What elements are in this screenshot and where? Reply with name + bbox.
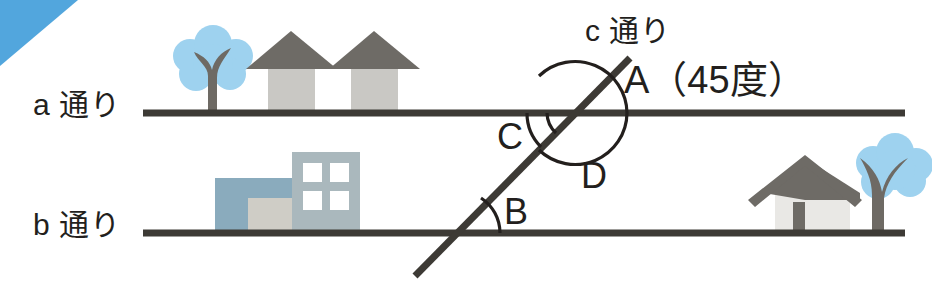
street-a-label: a 通り — [33, 90, 120, 120]
angle-diagram-figure: a 通り b 通り c 通り A（45度） C D B — [0, 0, 932, 287]
house-right-icon — [748, 155, 862, 233]
house-upper-2-icon — [329, 31, 420, 113]
house-upper-1-icon — [246, 31, 337, 113]
building-tall-icon — [292, 152, 360, 233]
angle-d-label: D — [581, 158, 607, 194]
diagram-canvas — [0, 0, 932, 287]
street-c-label: c 通り — [585, 16, 670, 46]
corner-accent-decoration — [0, 0, 78, 66]
angle-c-arc-outer — [527, 113, 541, 147]
angle-c-label: C — [497, 119, 523, 155]
angle-a-label: A（45度） — [624, 61, 806, 99]
tree-right-icon — [856, 133, 932, 233]
tree-left-icon — [173, 25, 253, 113]
street-b-label: b 通り — [33, 210, 120, 240]
angle-b-label: B — [504, 194, 528, 230]
